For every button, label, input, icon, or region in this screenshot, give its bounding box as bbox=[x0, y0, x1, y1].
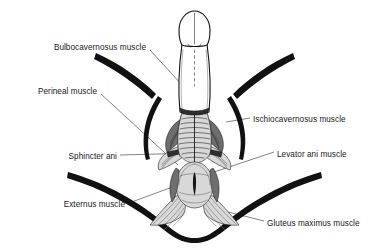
anatomy-figure: Bulbocavernosus muscle Perineal muscle S… bbox=[0, 0, 389, 248]
bulbocavernosus-muscle bbox=[178, 108, 212, 163]
penis bbox=[179, 11, 210, 115]
label-perineal: Perineal muscle bbox=[38, 87, 97, 96]
label-levator-ani: Levator ani muscle bbox=[277, 150, 347, 159]
label-ischiocavernosus: Ischiocavernosus muscle bbox=[253, 115, 346, 124]
label-externus: Externus muscle bbox=[64, 200, 126, 209]
label-bulbocavernosus: Bulbocavernosus muscle bbox=[54, 43, 147, 52]
label-gluteus-maximus: Gluteus maximus muscle bbox=[267, 219, 360, 228]
perineum-diagram-svg: Bulbocavernosus muscle Perineal muscle S… bbox=[0, 0, 389, 248]
label-sphincter-ani: Sphincter ani bbox=[69, 152, 118, 161]
